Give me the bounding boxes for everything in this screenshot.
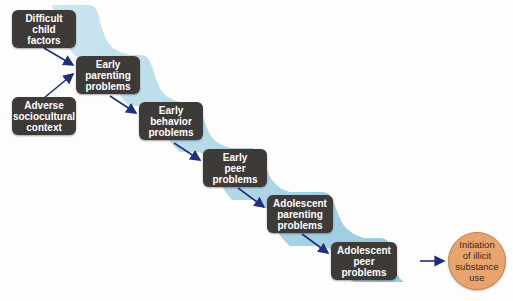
node-text-line: use <box>469 272 484 283</box>
node-initiation-illicit-substance-use: Initiation of illicit substance use <box>448 232 506 290</box>
node-text-line: Early <box>223 152 247 163</box>
node-early-peer-problems: Early peer problems <box>203 149 267 187</box>
node-adolescent-peer-problems: Adolescent peer problems <box>331 242 397 280</box>
node-text-line: Early <box>96 59 120 70</box>
node-text-line: problems <box>341 267 386 278</box>
node-text-line: behavior <box>150 116 192 127</box>
node-text-line: Initiation <box>459 239 494 250</box>
node-early-parenting-problems: Early parenting problems <box>76 56 140 94</box>
node-adverse-sociocultural-context: Adverse sociocultural context <box>12 97 76 135</box>
node-text-line: problems <box>277 220 322 231</box>
node-text-line: context <box>26 122 62 133</box>
node-text-line: peer <box>224 163 245 174</box>
node-text-line: parenting <box>277 209 323 220</box>
node-text-line: child <box>32 24 55 35</box>
node-difficult-child-factors: Difficult child factors <box>12 10 76 48</box>
node-text-line: Adolescent <box>273 198 327 209</box>
node-text-line: peer <box>353 256 374 267</box>
node-adolescent-parenting-problems: Adolescent parenting problems <box>267 195 333 233</box>
node-text-line: substance <box>455 261 498 272</box>
node-text-line: Difficult <box>25 13 62 24</box>
node-text-line: Adverse <box>24 100 63 111</box>
node-text-line: factors <box>27 35 60 46</box>
diagram-canvas: Difficult child factors Early parenting … <box>0 0 513 301</box>
node-early-behavior-problems: Early behavior problems <box>139 102 203 140</box>
node-text-line: of illicit <box>463 250 492 261</box>
node-text-line: problems <box>148 127 193 138</box>
node-text-line: parenting <box>85 70 131 81</box>
node-text-line: sociocultural <box>13 111 75 122</box>
node-text-line: problems <box>85 81 130 92</box>
node-text-line: Adolescent <box>337 245 391 256</box>
node-text-line: problems <box>212 174 257 185</box>
node-text-line: Early <box>159 105 183 116</box>
